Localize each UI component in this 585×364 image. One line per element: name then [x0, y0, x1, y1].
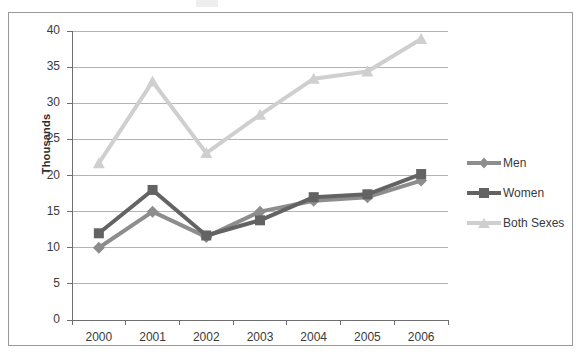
legend-item-men[interactable]: Men [466, 148, 578, 178]
series-layer [93, 33, 427, 254]
chart-legend: Men Women Both Sexes [466, 148, 578, 238]
legend-swatch-both-sexes [466, 216, 502, 230]
legend-swatch-women [466, 186, 502, 200]
legend-swatch-men [466, 156, 502, 170]
series-women [94, 169, 426, 240]
series-men [93, 175, 427, 254]
legend-label-men: Men [502, 156, 526, 170]
series-both-sexes [93, 33, 427, 168]
line-chart: Thousands 0510152025303540 2000200120022… [0, 0, 585, 364]
legend-item-both-sexes[interactable]: Both Sexes [466, 208, 578, 238]
legend-label-both-sexes: Both Sexes [502, 216, 564, 230]
legend-label-women: Women [502, 186, 544, 200]
gridlines [72, 31, 448, 320]
axes [67, 31, 448, 325]
legend-item-women[interactable]: Women [466, 178, 578, 208]
